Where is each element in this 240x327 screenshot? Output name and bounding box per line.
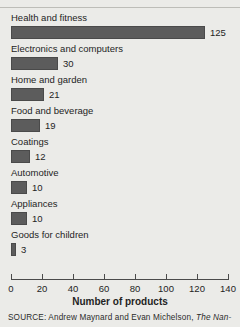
bar-value-label: 3 (21, 243, 26, 256)
x-axis-tick-label: 80 (130, 283, 141, 294)
top-divider (0, 7, 240, 8)
x-axis-tick-label: 40 (68, 283, 79, 294)
bar-group: Goods for children3 (0, 229, 240, 260)
category-label: Automotive (11, 167, 59, 179)
x-axis-tick-label: 140 (220, 283, 236, 294)
bar-row: 125 (11, 26, 226, 39)
bar-value-label: 10 (32, 212, 43, 225)
bar (11, 119, 40, 132)
x-axis-tick-label: 60 (99, 283, 110, 294)
bar (11, 181, 27, 194)
bar-row: 10 (11, 181, 43, 194)
bar-group: Food and beverage19 (0, 105, 240, 136)
bar-value-label: 21 (49, 88, 60, 101)
bar-value-label: 30 (63, 57, 74, 70)
bar-row: 12 (11, 150, 46, 163)
bar-row: 30 (11, 57, 74, 70)
x-axis-tick (166, 274, 167, 280)
x-axis-tick-label: 120 (189, 283, 205, 294)
x-axis-tick-label: 100 (158, 283, 174, 294)
x-axis-tick (135, 274, 136, 280)
bar-group: Health and fitness125 (0, 12, 240, 43)
bar-value-label: 10 (32, 181, 43, 194)
x-axis-tick (197, 274, 198, 280)
bar-row: 21 (11, 88, 60, 101)
x-axis-tick (228, 274, 229, 280)
x-axis-line (11, 279, 228, 280)
bar-row: 19 (11, 119, 56, 132)
source-caption: SOURCE: Andrew Maynard and Evan Michelso… (8, 313, 236, 323)
bar-group: Electronics and computers30 (0, 43, 240, 74)
category-label: Electronics and computers (11, 43, 123, 55)
category-label: Food and beverage (11, 105, 93, 117)
bar (11, 150, 30, 163)
category-label: Home and garden (11, 74, 87, 86)
bar-group: Home and garden21 (0, 74, 240, 105)
x-axis-tick-label: 20 (37, 283, 48, 294)
bar-group: Appliances10 (0, 198, 240, 229)
bar (11, 57, 58, 70)
bar (11, 243, 16, 256)
bar-value-label: 125 (210, 26, 226, 39)
category-label: Coatings (11, 136, 49, 148)
bar (11, 26, 205, 39)
x-axis-tick (73, 274, 74, 280)
bar-value-label: 12 (35, 150, 46, 163)
source-italic-title: The Nan- (196, 313, 231, 322)
bar-group: Coatings12 (0, 136, 240, 167)
bar-chart-figure: Health and fitness125Electronics and com… (0, 0, 240, 327)
x-axis-tick-label: 0 (8, 283, 13, 294)
bar (11, 88, 44, 101)
bar-row: 3 (11, 243, 26, 256)
bar-groups-container: Health and fitness125Electronics and com… (0, 12, 240, 260)
x-axis-tick (104, 274, 105, 280)
x-axis-title: Number of products (0, 296, 240, 307)
source-prefix: SOURCE: (8, 313, 46, 322)
x-axis-tick (11, 274, 12, 280)
category-label: Goods for children (11, 229, 89, 241)
source-authors: Andrew Maynard and Evan Michelson, (48, 313, 193, 322)
category-label: Health and fitness (11, 12, 87, 24)
bar-row: 10 (11, 212, 43, 225)
bar (11, 212, 27, 225)
category-label: Appliances (11, 198, 57, 210)
bar-value-label: 19 (45, 119, 56, 132)
bar-group: Automotive10 (0, 167, 240, 198)
x-axis-tick (42, 274, 43, 280)
